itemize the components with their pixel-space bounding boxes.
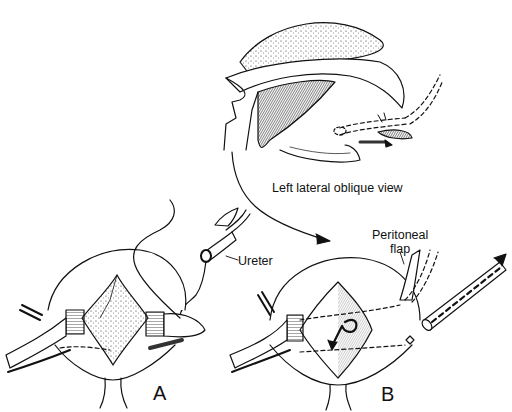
inset-bladder-opening xyxy=(258,80,335,147)
arrow-head-icon xyxy=(316,234,330,244)
ureter-label: Ureter xyxy=(238,254,273,268)
panel-a-illustration xyxy=(6,200,205,408)
peritoneal-flap-label-line2: flap xyxy=(372,242,428,256)
panel-b-illustration xyxy=(230,250,506,410)
inset-caption: Left lateral oblique view xyxy=(272,181,403,195)
peritoneal-flap-label: Peritoneal flap xyxy=(372,228,428,256)
inset-lateral-view xyxy=(224,23,443,162)
arc-arrow xyxy=(232,152,326,240)
illustration-canvas xyxy=(0,0,512,412)
peritoneal-flap-label-line1: Peritoneal xyxy=(372,228,428,242)
ureter-leader-line xyxy=(226,256,238,260)
panel-label-a: A xyxy=(153,382,166,405)
panel-label-b: B xyxy=(381,383,394,406)
